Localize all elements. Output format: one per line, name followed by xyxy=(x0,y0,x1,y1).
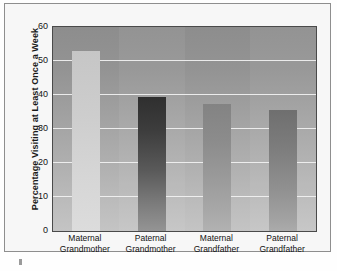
x-axis-tick-label-line: Grandfather xyxy=(184,244,250,255)
registration-mark xyxy=(19,259,22,265)
y-axis-tick-label: 40 xyxy=(38,90,48,99)
y-axis-tick-label: 20 xyxy=(38,158,48,167)
x-axis-tick-label-line: Paternal xyxy=(249,233,315,244)
gridline xyxy=(53,26,316,27)
x-axis-tick-label: PaternalGrandfather xyxy=(249,233,315,254)
chart-screenshot: Percentage Visiting at Least Once a Week… xyxy=(0,0,337,271)
bar xyxy=(203,104,231,232)
y-axis-tick-label: 60 xyxy=(38,22,48,31)
bar xyxy=(138,97,166,231)
x-axis-tick-label: PaternalGrandmother xyxy=(118,233,184,254)
x-axis-tick-label-line: Paternal xyxy=(118,233,184,244)
figure-frame: Percentage Visiting at Least Once a Week… xyxy=(4,3,331,252)
y-axis-tick-label: 30 xyxy=(38,124,48,133)
x-axis-tick-label: MaternalGrandmother xyxy=(52,233,118,254)
plot-area xyxy=(52,26,317,232)
bar xyxy=(72,51,100,231)
x-axis-tick-labels: MaternalGrandmotherPaternalGrandmotherMa… xyxy=(52,233,315,257)
y-axis-tick-label: 0 xyxy=(43,226,48,235)
x-axis-tick-label: MaternalGrandfather xyxy=(184,233,250,254)
y-axis-tick-labels: 0102030405060 xyxy=(32,20,48,236)
y-axis-tick-label: 10 xyxy=(38,192,48,201)
y-axis-tick-label: 50 xyxy=(38,56,48,65)
x-axis-tick-label-line: Maternal xyxy=(52,233,118,244)
x-axis-tick-label-line: Grandfather xyxy=(249,244,315,255)
x-axis-tick-label-line: Grandmother xyxy=(52,244,118,255)
x-axis-tick-label-line: Grandmother xyxy=(118,244,184,255)
x-axis-tick-label-line: Maternal xyxy=(184,233,250,244)
bar xyxy=(269,110,297,231)
